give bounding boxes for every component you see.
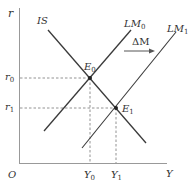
origin-label: O: [8, 169, 16, 180]
r0-tick-label: r0: [5, 71, 14, 84]
e1-label: E1: [121, 103, 134, 116]
lm0-curve: [44, 30, 131, 131]
lm0-label: LM0: [123, 18, 145, 31]
equilibrium-point-e1: [114, 106, 118, 110]
is-lm-diagram: r Y O IS LM0 LM1 ΔM E0 E1 r0 r1 Y0 Y1: [0, 0, 190, 190]
equilibrium-point-e0: [88, 76, 92, 80]
guide-lines: [20, 78, 116, 163]
is-label: IS: [36, 15, 48, 26]
y-axis-label: r: [8, 7, 14, 20]
shift-label: ΔM: [132, 36, 149, 47]
x-axis-label: Y: [166, 168, 174, 179]
lm1-curve: [82, 32, 176, 148]
y1-tick-label: Y1: [111, 169, 122, 182]
y0-tick-label: Y0: [84, 169, 95, 182]
lm1-label: LM1: [166, 23, 188, 36]
shift-arrow-icon: [124, 49, 155, 54]
r1-tick-label: r1: [5, 101, 14, 114]
